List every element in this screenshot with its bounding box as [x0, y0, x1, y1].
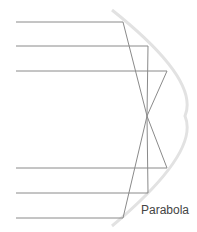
parabola-curve — [112, 10, 187, 226]
parabola-label: Parabola — [141, 203, 189, 217]
ray-3 — [16, 71, 167, 116]
rays — [16, 22, 167, 218]
ray-2 — [16, 46, 148, 116]
ray-1 — [16, 22, 147, 116]
parabola-diagram — [0, 0, 197, 232]
ray-5 — [16, 116, 148, 193]
ray-4 — [16, 116, 167, 168]
ray-6 — [16, 116, 147, 218]
